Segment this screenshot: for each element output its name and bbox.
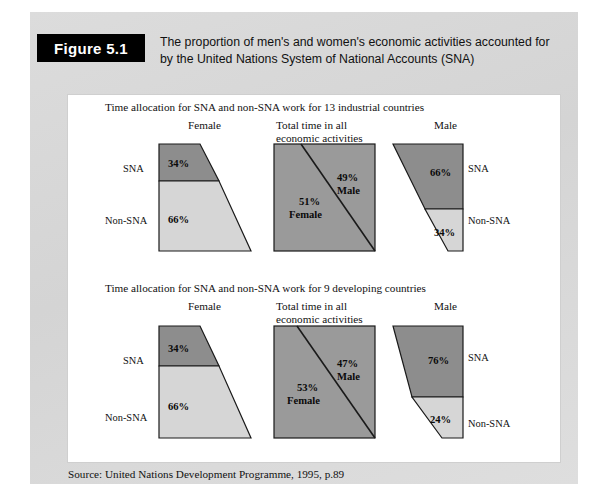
total-area-industrial [274, 144, 375, 251]
chart-total-industrial: 51% Female 49% Male [273, 143, 377, 253]
chart-male-developing: 76% 24% [392, 325, 492, 440]
value-sna-male-industrial: 66% [430, 167, 451, 178]
value-nonsna-female-developing: 66% [168, 401, 189, 412]
value-male-total-industrial: 49% [337, 172, 358, 183]
value-sna-male-developing: 76% [428, 355, 449, 366]
figure-header: Figure 5.1 The proportion of men's and w… [30, 12, 578, 92]
chart-total-developing: 53% Female 47% Male [273, 325, 377, 440]
column-label-male-industrial: Male [434, 119, 457, 131]
axis-label-nonsna-female-industrial: Non-SNA [105, 215, 147, 226]
value-nonsna-male-developing: 24% [430, 414, 451, 425]
chart-female-developing: 34% 66% [158, 325, 258, 440]
column-label-male-developing: Male [434, 300, 457, 312]
chart-male-industrial: 66% 34% [392, 143, 492, 253]
label-female-total-industrial: Female [289, 209, 322, 220]
value-nonsna-female-industrial: 66% [168, 214, 189, 225]
value-female-total-industrial: 51% [299, 196, 320, 207]
value-female-total-developing: 53% [297, 382, 318, 393]
chart-female-industrial: 34% 66% [158, 143, 258, 253]
column-label-total-line2-developing: economic activities [276, 313, 363, 325]
axis-label-sna-female-developing: SNA [123, 355, 144, 366]
axis-label-nonsna-female-developing: Non-SNA [105, 412, 147, 423]
segment-sna-male-industrial [393, 144, 463, 209]
column-label-female-industrial: Female [188, 119, 221, 131]
figure-title: The proportion of men's and women's econ… [160, 34, 565, 68]
section-heading-developing: Time allocation for SNA and non-SNA work… [105, 282, 426, 294]
total-area-developing [274, 326, 375, 438]
label-female-total-developing: Female [287, 395, 320, 406]
value-nonsna-male-industrial: 34% [434, 227, 455, 238]
column-label-total-line1-industrial: Total time in all [276, 119, 347, 131]
value-sna-female-developing: 34% [168, 343, 189, 354]
label-male-total-developing: Male [337, 371, 360, 382]
label-male-total-industrial: Male [337, 185, 360, 196]
figure-number-badge: Figure 5.1 [37, 34, 145, 62]
source-note: Source: United Nations Development Progr… [68, 468, 344, 480]
value-male-total-developing: 47% [337, 358, 358, 369]
column-label-female-developing: Female [188, 300, 221, 312]
column-label-total-line1-developing: Total time in all [276, 300, 347, 312]
figure-root: Figure 5.1 The proportion of men's and w… [0, 0, 606, 497]
section-heading-industrial: Time allocation for SNA and non-SNA work… [105, 101, 424, 113]
value-sna-female-industrial: 34% [168, 158, 189, 169]
axis-label-sna-female-industrial: SNA [123, 163, 144, 174]
